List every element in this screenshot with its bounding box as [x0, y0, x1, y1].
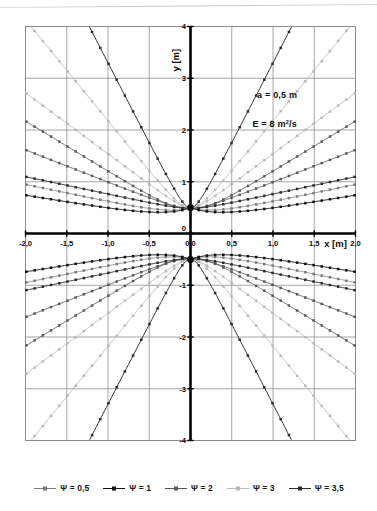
- data-point-marker: [296, 277, 299, 280]
- axes: [26, 27, 356, 441]
- data-point-marker: [50, 135, 53, 138]
- data-point-marker: [156, 208, 159, 211]
- x-tick-label: 0,0: [185, 239, 196, 248]
- data-point-marker: [50, 266, 53, 269]
- data-point-marker: [263, 386, 266, 389]
- data-point-marker: [156, 157, 159, 160]
- data-point-marker: [312, 280, 315, 283]
- data-point-marker: [337, 334, 340, 337]
- data-point-marker: [230, 268, 233, 271]
- data-point-marker: [83, 203, 86, 206]
- data-point-marker: [214, 292, 217, 295]
- data-point-marker: [140, 265, 143, 268]
- data-point-marker: [165, 292, 168, 295]
- data-point-marker: [124, 209, 127, 212]
- data-point-marker: [132, 110, 135, 113]
- legend-item-3[interactable]: Ψ = 2: [164, 483, 213, 493]
- data-point-marker: [345, 269, 348, 272]
- data-point-marker: [206, 259, 209, 262]
- data-point-marker: [50, 50, 53, 53]
- data-point-marker: [312, 70, 315, 73]
- data-point-marker: [115, 195, 118, 198]
- data-point-marker: [353, 281, 356, 284]
- data-point-marker: [124, 268, 127, 271]
- data-point-marker: [247, 150, 250, 153]
- data-point-marker: [42, 40, 45, 43]
- legend-item-5[interactable]: Ψ = 3,5: [288, 483, 344, 493]
- data-point-marker: [33, 98, 36, 101]
- data-point-marker: [42, 309, 45, 312]
- data-point-marker: [230, 197, 233, 200]
- data-point-marker: [337, 309, 340, 312]
- data-point-marker: [74, 271, 77, 274]
- data-point-marker: [247, 260, 250, 263]
- chart-page: -2,0-1,5-1,0-0,50,00,51,01,52,04321-1-2-…: [0, 0, 377, 511]
- data-point-marker: [42, 278, 45, 281]
- data-point-marker: [83, 269, 86, 272]
- data-point-marker: [296, 155, 299, 158]
- data-point-marker: [132, 171, 135, 174]
- data-point-marker: [230, 170, 233, 173]
- data-point-marker: [255, 277, 258, 280]
- data-point-marker: [271, 272, 274, 275]
- data-point-marker: [148, 201, 151, 204]
- data-point-marker: [58, 303, 61, 306]
- data-point-marker: [296, 135, 299, 138]
- data-point-marker: [230, 295, 233, 298]
- legend-item-4[interactable]: Ψ = 3: [226, 483, 275, 493]
- data-point-marker: [288, 364, 291, 367]
- data-point-marker: [74, 168, 77, 171]
- data-point-marker: [165, 260, 168, 263]
- data-point-marker: [238, 259, 241, 262]
- data-point-marker: [214, 276, 217, 279]
- data-point-marker: [345, 312, 348, 315]
- legend-item-2[interactable]: Ψ = 1: [102, 483, 151, 493]
- data-point-marker: [353, 149, 356, 152]
- data-point-marker: [74, 263, 77, 266]
- data-point-marker: [107, 63, 110, 65]
- data-point-marker: [42, 268, 45, 271]
- data-point-marker: [263, 257, 266, 260]
- data-point-marker: [156, 307, 159, 310]
- data-point-marker: [83, 261, 86, 264]
- data-point-marker: [74, 186, 77, 189]
- data-point-marker: [66, 395, 69, 398]
- data-point-marker: [214, 173, 217, 176]
- data-point-marker: [304, 129, 307, 132]
- data-point-marker: [58, 324, 61, 327]
- data-point-marker: [91, 434, 94, 437]
- data-point-marker: [66, 165, 69, 168]
- data-point-marker: [83, 155, 86, 158]
- data-point-marker: [230, 263, 233, 266]
- data-point-marker: [140, 275, 143, 278]
- legend-item-1[interactable]: Ψ = 0,5: [33, 483, 89, 493]
- data-point-marker: [140, 194, 143, 197]
- data-point-marker: [91, 175, 94, 178]
- data-point-marker: [33, 287, 36, 290]
- data-point-marker: [42, 425, 45, 428]
- data-point-marker: [107, 272, 110, 275]
- data-point-marker: [222, 262, 225, 265]
- data-point-marker: [271, 264, 274, 267]
- data-point-marker: [140, 259, 143, 262]
- data-point-marker: [83, 90, 86, 93]
- data-point-marker: [271, 312, 274, 315]
- data-point-marker: [115, 78, 118, 81]
- data-point-marker: [124, 277, 127, 280]
- y-tick-label: 3: [182, 74, 186, 83]
- data-point-marker: [33, 195, 36, 198]
- data-point-marker: [263, 130, 266, 133]
- legend-label: Ψ = 3: [253, 483, 275, 493]
- data-point-marker: [99, 418, 102, 421]
- y-tick-label: -4: [179, 436, 187, 445]
- data-point-marker: [74, 129, 77, 132]
- data-point-marker: [222, 307, 225, 310]
- data-point-marker: [107, 207, 110, 210]
- data-point-marker: [99, 47, 102, 50]
- data-point-marker: [279, 418, 282, 421]
- data-point-marker: [33, 269, 36, 272]
- data-point-marker: [279, 259, 282, 262]
- data-point-marker: [66, 201, 69, 204]
- data-point-marker: [173, 264, 176, 267]
- data-point-marker: [238, 265, 241, 268]
